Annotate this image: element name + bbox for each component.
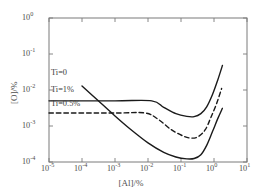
x-tick-label: 101	[239, 165, 250, 173]
x-axis-title: [Al]/%	[119, 179, 144, 188]
x-tick-label: 10-4	[74, 165, 87, 173]
y-tick-label: 10-3	[22, 122, 35, 130]
series-label-ti-1pct: Ti=1%	[51, 86, 74, 94]
x-tick-label: 100	[206, 165, 217, 173]
series-label-ti-05pct: Ti=0.5%	[51, 100, 80, 108]
y-tick-label: 10-2	[22, 86, 35, 94]
y-tick-label: 100	[22, 14, 33, 22]
figure-container: 100 10-1 10-2 10-3 10-4 10-5 10-4 10-3 1…	[0, 0, 265, 196]
series-label-ti-0: Ti=0	[51, 69, 67, 77]
y-axis-title: [O]/%	[10, 82, 19, 105]
chart-plot-area	[0, 0, 265, 196]
y-tick-label: 10-4	[22, 158, 35, 166]
x-tick-label: 10-5	[41, 165, 54, 173]
x-tick-label: 10-1	[173, 165, 186, 173]
y-tick-label: 10-1	[22, 50, 35, 58]
plot-frame	[49, 18, 247, 162]
x-tick-label: 10-3	[107, 165, 120, 173]
x-tick-label: 10-2	[140, 165, 153, 173]
